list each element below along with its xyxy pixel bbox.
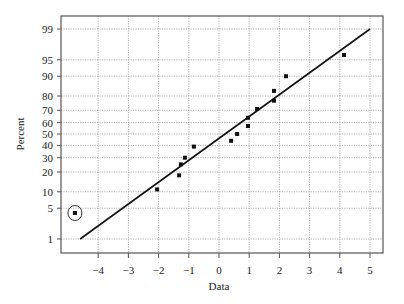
- y-tick-label: 30: [42, 152, 54, 164]
- data-point: [246, 116, 250, 120]
- y-tick-label: 90: [42, 70, 54, 82]
- y-tick-label: 1: [48, 233, 54, 245]
- y-tick-label: 95: [42, 54, 54, 66]
- data-point: [255, 107, 259, 111]
- y-tick-label: 50: [42, 128, 54, 140]
- data-point: [73, 211, 77, 215]
- x-tick-label: 1: [246, 264, 252, 276]
- data-point: [246, 124, 250, 128]
- y-tick-label: 40: [42, 139, 54, 151]
- data-point: [272, 99, 276, 103]
- data-point: [229, 139, 233, 143]
- x-tick-label: −3: [123, 264, 135, 276]
- y-tick-label: 99: [42, 23, 54, 35]
- x-tick-label: 3: [307, 264, 313, 276]
- data-point: [177, 173, 181, 177]
- data-point: [192, 145, 196, 149]
- x-tick-label: 4: [337, 264, 343, 276]
- x-tick-label: 0: [216, 264, 222, 276]
- data-point: [284, 74, 288, 78]
- y-tick-label: 20: [42, 166, 54, 178]
- y-tick-label: 5: [48, 202, 54, 214]
- y-axis-ticks: 151020304050607080909599: [42, 23, 61, 245]
- y-tick-label: 70: [42, 104, 54, 116]
- y-tick-label: 80: [42, 90, 54, 102]
- data-point: [342, 53, 346, 57]
- data-point: [183, 156, 187, 160]
- x-tick-label: 2: [277, 264, 283, 276]
- data-point: [155, 187, 159, 191]
- x-tick-label: 5: [367, 264, 373, 276]
- x-tick-label: −2: [153, 264, 165, 276]
- data-point: [272, 89, 276, 93]
- y-tick-label: 10: [42, 186, 54, 198]
- data-point: [235, 132, 239, 136]
- x-tick-label: −4: [92, 264, 104, 276]
- x-axis-label: Data: [209, 280, 230, 292]
- y-tick-label: 60: [42, 117, 54, 129]
- y-axis-label: Percent: [14, 118, 26, 151]
- x-axis-ticks: −4−3−2−1012345: [92, 253, 373, 276]
- x-tick-label: −1: [183, 264, 195, 276]
- data-point: [179, 162, 183, 166]
- probability-plot: 151020304050607080909599 −4−3−2−1012345 …: [0, 0, 404, 304]
